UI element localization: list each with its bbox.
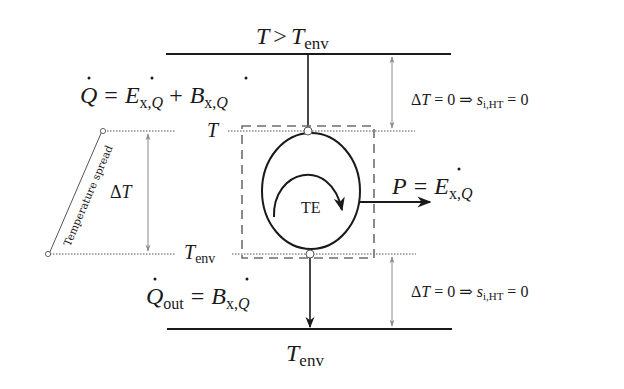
te-diagram: Temperature spread T>Tenv Tenv Q=Ex,Q+Bx… bbox=[0, 0, 624, 389]
engine-label: TE bbox=[301, 199, 321, 216]
svg-text:Qout=Bx,Q: Qout=Bx,Q bbox=[146, 283, 250, 312]
engine-circle bbox=[262, 133, 360, 249]
upper-condition: ΔT = 0 ⇒ si,HT = 0 bbox=[411, 91, 528, 110]
heat-in-equation: Q=Ex,Q+Bx,Q bbox=[80, 77, 248, 112]
hot-reservoir-label: T>Tenv bbox=[256, 23, 329, 53]
temperature-spread-label: Temperature spread bbox=[61, 143, 115, 248]
lower-level-label: Tenv bbox=[184, 241, 215, 266]
upper-level-label: T bbox=[207, 119, 220, 141]
cold-reservoir-label: Tenv bbox=[286, 340, 324, 370]
upper-node bbox=[304, 127, 312, 135]
power-equation: P=Ex,Q bbox=[391, 168, 473, 203]
lower-node bbox=[306, 250, 314, 258]
svg-text:P=Ex,Q: P=Ex,Q bbox=[391, 173, 473, 202]
spread-bottom-node bbox=[45, 251, 50, 256]
svg-text:Q=Ex,Q+Bx,Q: Q=Ex,Q+Bx,Q bbox=[80, 82, 228, 111]
heat-out-equation: Qout=Bx,Q bbox=[146, 278, 250, 313]
delta-t-label: ΔT bbox=[110, 182, 134, 202]
lower-condition: ΔT = 0 ⇒ si,HT = 0 bbox=[411, 283, 528, 302]
spread-top-node bbox=[100, 128, 105, 133]
